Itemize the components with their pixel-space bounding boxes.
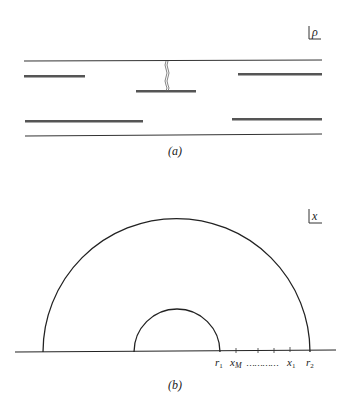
lower-right-plate (232, 118, 322, 121)
label-r2: r2 (306, 356, 314, 370)
x-axis-label: x (311, 209, 318, 223)
caption-a: (a) (168, 144, 182, 158)
label-xM: xM (229, 356, 243, 370)
rho-axis-marker: ρ (309, 25, 321, 39)
outer-semicircle (43, 219, 310, 352)
label-x1: x1 (286, 356, 296, 370)
top-boundary-line (24, 60, 322, 61)
upper-left-plate (24, 75, 85, 78)
baseline (15, 350, 336, 352)
lower-left-plate (25, 120, 143, 123)
caption-b: (b) (168, 378, 182, 392)
upper-right-plate (238, 73, 322, 76)
rho-axis-label: ρ (311, 25, 318, 39)
label-dots: ………… (246, 358, 278, 368)
x-axis-marker: x (309, 209, 322, 223)
inner-semicircle (134, 309, 220, 352)
point-labels: r1 xM ………… x1 r2 (215, 356, 314, 370)
wavy-connector (165, 61, 169, 91)
bottom-boundary-line (25, 134, 322, 136)
figure-a: ρ (a) (24, 25, 322, 158)
label-r1: r1 (215, 356, 223, 370)
figure-b: x r1 xM ………… x1 r2 (b) (15, 209, 336, 392)
diagram-canvas: ρ (a) x r (0, 0, 351, 401)
